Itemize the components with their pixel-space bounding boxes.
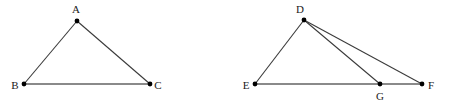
segment-DE xyxy=(255,20,304,84)
vertex-dot-D xyxy=(302,18,307,23)
triangle-def-with-cevian xyxy=(253,18,425,87)
vertex-label-D: D xyxy=(296,4,304,15)
geometry-figure-canvas: ABCDEGF xyxy=(0,0,453,107)
vertex-label-A: A xyxy=(72,4,80,15)
segment-DF xyxy=(304,20,422,84)
vertex-dot-C xyxy=(148,82,153,87)
vertex-label-F: F xyxy=(428,80,434,91)
segment-DG xyxy=(304,20,380,84)
vertex-dot-B xyxy=(22,82,27,87)
vertex-dot-F xyxy=(420,82,425,87)
vertex-dot-E xyxy=(253,82,258,87)
segment-AC xyxy=(77,21,150,84)
vertex-dot-G xyxy=(378,82,383,87)
vertex-label-E: E xyxy=(243,80,250,91)
geometry-figure-svg xyxy=(0,0,453,107)
vertex-label-B: B xyxy=(11,80,18,91)
vertex-label-G: G xyxy=(376,91,384,102)
vertex-label-C: C xyxy=(154,80,161,91)
segment-AB xyxy=(24,21,77,84)
vertex-dot-A xyxy=(75,19,80,24)
triangle-abc xyxy=(22,19,153,87)
